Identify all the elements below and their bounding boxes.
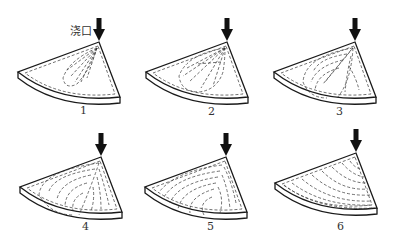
gate-arrow-icon: [350, 129, 362, 152]
filling-sequence-diagram: [0, 0, 397, 250]
panel-4: [20, 133, 122, 219]
gate-arrow-icon: [95, 133, 107, 156]
panel-number-6: 6: [337, 220, 344, 233]
panel-3: [274, 18, 376, 104]
panel-number-1: 1: [80, 104, 87, 117]
gate-arrow-icon: [349, 18, 361, 41]
panel-6: [275, 129, 377, 215]
panel-number-5: 5: [207, 220, 214, 233]
panel-5: [145, 133, 247, 219]
panel-number-4: 4: [82, 220, 89, 233]
panel-2: [146, 18, 248, 104]
gate-label: 浇口: [70, 22, 92, 38]
panel-number-2: 2: [208, 105, 215, 118]
gate-arrow-icon: [221, 18, 233, 41]
panel-1: [18, 18, 120, 104]
gate-arrow-icon: [93, 18, 105, 41]
panel-number-3: 3: [336, 105, 343, 118]
gate-arrow-icon: [220, 133, 232, 156]
